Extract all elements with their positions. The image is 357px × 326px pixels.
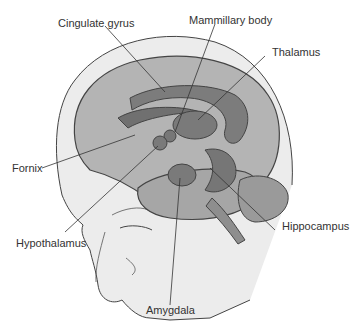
hypothalamus-shape bbox=[153, 136, 167, 150]
label-hippocampus: Hippocampus bbox=[282, 220, 349, 232]
label-hypothalamus: Hypothalamus bbox=[16, 237, 86, 249]
label-amygdala: Amygdala bbox=[146, 304, 195, 316]
thalamus-shape bbox=[173, 111, 217, 139]
label-fornix: Fornix bbox=[12, 162, 43, 174]
amygdala-shape bbox=[168, 164, 196, 186]
label-thalamus: Thalamus bbox=[272, 46, 320, 58]
label-mammillary-body: Mammillary body bbox=[189, 14, 272, 26]
limbic-system-diagram: Cingulate gyrus Mammillary body Thalamus… bbox=[0, 0, 357, 326]
label-cingulate-gyrus: Cingulate gyrus bbox=[58, 17, 134, 29]
